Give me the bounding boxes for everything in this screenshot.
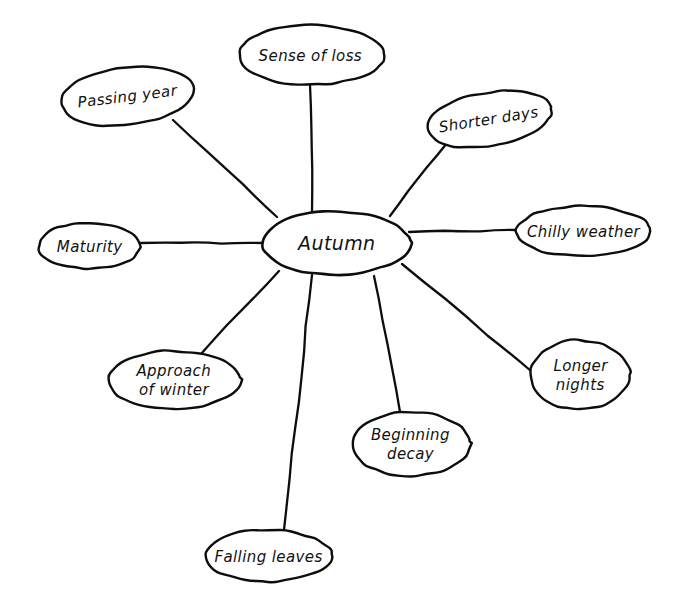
node-label-beginning-decay: Beginning xyxy=(371,426,450,444)
branch-node-passing-year[interactable]: Passing year xyxy=(58,59,197,132)
node-label-chilly-weather: Chilly weather xyxy=(527,223,641,241)
connector-autumn-to-sense-of-loss xyxy=(310,85,312,212)
connector-autumn-to-approach-of-winter xyxy=(201,271,279,354)
node-label-falling-leaves: Falling leaves xyxy=(214,548,322,566)
branch-node-approach-of-winter[interactable]: Approachof winter xyxy=(109,350,243,409)
branch-node-falling-leaves[interactable]: Falling leaves xyxy=(206,530,333,582)
connector-autumn-to-shorter-days xyxy=(390,143,447,216)
connector-autumn-to-falling-leaves xyxy=(284,275,312,530)
connector-autumn-to-beginning-decay xyxy=(374,276,400,412)
branch-node-chilly-weather[interactable]: Chilly weather xyxy=(516,205,651,255)
node-label-sense-of-loss: Sense of loss xyxy=(259,47,362,65)
node-label-approach-of-winter: of winter xyxy=(139,381,209,399)
node-label-longer-nights: Longer xyxy=(553,357,608,375)
node-label-maturity: Maturity xyxy=(57,238,124,256)
mind-map-diagram: AutumnSense of lossPassing yearShorter d… xyxy=(0,0,680,609)
connector-autumn-to-chilly-weather xyxy=(409,230,516,232)
node-layer: AutumnSense of lossPassing yearShorter d… xyxy=(39,25,651,583)
connector-autumn-to-longer-nights xyxy=(402,264,531,371)
connector-autumn-to-maturity xyxy=(140,242,262,243)
connector-autumn-to-passing-year xyxy=(173,120,277,217)
branch-node-shorter-days[interactable]: Shorter days xyxy=(424,83,556,155)
branch-node-maturity[interactable]: Maturity xyxy=(39,223,141,269)
node-label-longer-nights: nights xyxy=(556,376,605,394)
mind-map-canvas: AutumnSense of lossPassing yearShorter d… xyxy=(0,0,680,609)
branch-node-beginning-decay[interactable]: Beginningdecay xyxy=(353,412,472,476)
connector-layer xyxy=(140,85,531,530)
node-label-autumn: Autumn xyxy=(296,232,375,254)
node-label-approach-of-winter: Approach xyxy=(135,362,211,380)
node-label-beginning-decay: decay xyxy=(387,445,435,463)
branch-node-sense-of-loss[interactable]: Sense of loss xyxy=(240,25,385,85)
branch-node-longer-nights[interactable]: Longernights xyxy=(530,339,630,409)
central-node-autumn[interactable]: Autumn xyxy=(262,211,412,275)
